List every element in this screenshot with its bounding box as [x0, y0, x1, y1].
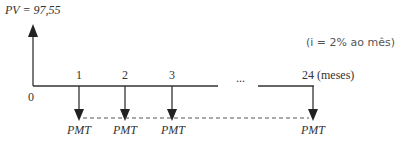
tick-label-1: 1: [76, 69, 82, 81]
origin-label: 0: [28, 91, 34, 103]
pmt-arrowhead-icon-3: [167, 109, 177, 121]
pmt-label-2: PMT: [113, 124, 137, 136]
pmt-arrowhead-icon-24: [308, 109, 318, 121]
pv-label: PV = 97,55: [5, 4, 61, 16]
tick-label-3: 3: [169, 69, 175, 81]
tick-label-2: 2: [122, 69, 128, 81]
pmt-label-1: PMT: [67, 124, 91, 136]
pmt-arrowhead-icon-1: [74, 109, 84, 121]
ellipsis: ...: [236, 72, 245, 84]
pmt-label-24: PMT: [301, 124, 325, 136]
tick-label-24: 24 (meses): [302, 69, 354, 81]
pmt-arrowhead-icon-2: [120, 109, 130, 121]
pv-arrowhead-icon: [28, 24, 38, 37]
pmt-label-3: PMT: [161, 124, 185, 136]
rate-note: (i = 2% ao mês): [306, 37, 395, 48]
